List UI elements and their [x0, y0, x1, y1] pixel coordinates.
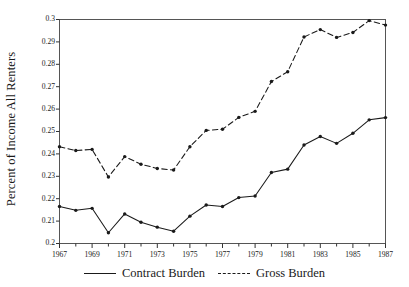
data-point [172, 229, 175, 232]
data-point [107, 231, 110, 234]
data-point [335, 142, 338, 145]
x-tick-label: 1969 [75, 250, 109, 259]
data-point [270, 80, 273, 83]
data-point [74, 149, 77, 152]
plot-area [0, 0, 409, 287]
legend-label: Contract Burden [122, 266, 205, 281]
y-tick-label: 0.2 [20, 238, 55, 247]
y-tick-label: 0.27 [20, 82, 55, 91]
data-point [123, 212, 126, 215]
legend-line-swatch [218, 269, 250, 277]
data-point [253, 194, 256, 197]
data-point [351, 132, 354, 135]
y-tick-label: 0.3 [20, 14, 55, 23]
data-point [107, 175, 110, 178]
data-point [270, 171, 273, 174]
y-tick-label: 0.24 [20, 149, 55, 158]
data-point [384, 116, 387, 119]
chart-legend: Contract BurdenGross Burden [0, 262, 409, 284]
data-point [237, 116, 240, 119]
y-tick-label: 0.25 [20, 126, 55, 135]
data-point [90, 148, 93, 151]
x-tick-label: 1971 [108, 250, 142, 259]
legend-line-swatch [84, 269, 116, 277]
y-tick-label: 0.21 [20, 216, 55, 225]
data-point [286, 167, 289, 170]
data-point [156, 167, 159, 170]
data-point [351, 31, 354, 34]
data-point [302, 143, 305, 146]
data-point [253, 110, 256, 113]
data-point [139, 221, 142, 224]
legend-entry: Contract Burden [84, 266, 205, 281]
y-tick-label: 0.29 [20, 37, 55, 46]
data-point [74, 209, 77, 212]
data-point [188, 214, 191, 217]
y-tick-label: 0.22 [20, 194, 55, 203]
legend-entry: Gross Burden [218, 266, 325, 281]
chart-container: Percent of Income All Renters 0.20.210.2… [0, 0, 409, 287]
data-point [286, 70, 289, 73]
series-line-contract-burden [60, 118, 386, 233]
data-point [188, 145, 191, 148]
data-point [384, 23, 387, 26]
data-point [58, 145, 61, 148]
y-tick-label: 0.23 [20, 171, 55, 180]
data-point [172, 168, 175, 171]
legend-label: Gross Burden [256, 266, 325, 281]
series-line-gross-burden [60, 21, 386, 177]
data-point [335, 36, 338, 39]
data-point [302, 35, 305, 38]
x-tick-label: 1979 [238, 250, 272, 259]
x-tick-label: 1967 [43, 250, 77, 259]
data-point [90, 207, 93, 210]
data-point [319, 135, 322, 138]
x-tick-label: 1973 [140, 250, 174, 259]
data-point [139, 163, 142, 166]
y-tick-label: 0.28 [20, 59, 55, 68]
x-tick-label: 1983 [303, 250, 337, 259]
data-point [368, 19, 371, 22]
data-point [123, 155, 126, 158]
data-point [221, 128, 224, 131]
y-tick-label: 0.26 [20, 104, 55, 113]
data-point [58, 205, 61, 208]
data-point [221, 205, 224, 208]
data-point [205, 203, 208, 206]
x-tick-label: 1981 [271, 250, 305, 259]
data-point [368, 118, 371, 121]
data-point [237, 196, 240, 199]
data-point [319, 28, 322, 31]
x-tick-label: 1985 [336, 250, 370, 259]
data-point [205, 129, 208, 132]
x-tick-label: 1975 [173, 250, 207, 259]
plot-frame [60, 20, 386, 244]
x-tick-label: 1987 [369, 250, 403, 259]
x-tick-label: 1977 [206, 250, 240, 259]
data-point [156, 225, 159, 228]
